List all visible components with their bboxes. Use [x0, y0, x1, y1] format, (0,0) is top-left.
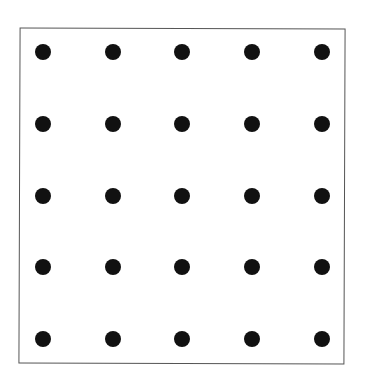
grid-dot — [35, 116, 51, 132]
grid-dot — [244, 331, 260, 347]
grid-dot — [174, 259, 190, 275]
grid-dot — [174, 44, 190, 60]
dot-grid-diagram — [0, 0, 369, 380]
grid-dot — [174, 116, 190, 132]
grid-dot — [174, 331, 190, 347]
grid-dot — [314, 116, 330, 132]
grid-dot — [314, 259, 330, 275]
grid-dot — [174, 188, 190, 204]
grid-dot — [105, 116, 121, 132]
grid-dot — [35, 331, 51, 347]
grid-dot — [244, 44, 260, 60]
grid-dot — [105, 44, 121, 60]
grid-dot — [35, 259, 51, 275]
grid-dot — [244, 188, 260, 204]
grid-dot — [105, 259, 121, 275]
grid-dot — [35, 44, 51, 60]
grid-dot — [35, 188, 51, 204]
grid-dot — [314, 44, 330, 60]
grid-dot — [314, 331, 330, 347]
grid-dot — [314, 188, 330, 204]
grid-dot — [105, 331, 121, 347]
grid-dot — [244, 116, 260, 132]
grid-dot — [244, 259, 260, 275]
grid-dot — [105, 188, 121, 204]
